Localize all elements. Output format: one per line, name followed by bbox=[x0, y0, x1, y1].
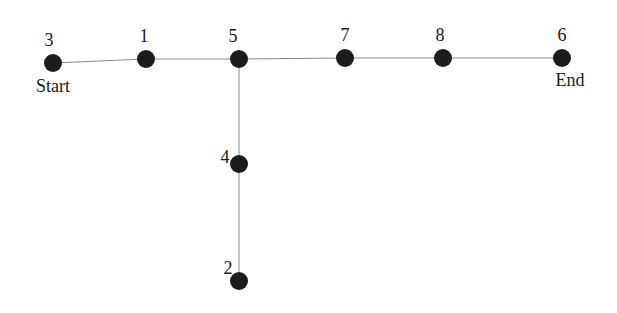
edge-3-1 bbox=[53, 59, 146, 63]
node-4 bbox=[230, 155, 248, 173]
node-label-3: 3 bbox=[45, 30, 54, 50]
node-label-5: 5 bbox=[229, 26, 238, 46]
node-label-8: 8 bbox=[436, 25, 445, 45]
node-8 bbox=[434, 49, 452, 67]
node-2 bbox=[230, 272, 248, 290]
labels-layer: 3Start15786End42 bbox=[36, 25, 585, 278]
node-1 bbox=[137, 50, 155, 68]
node-label-1: 1 bbox=[140, 26, 149, 46]
edges-layer bbox=[53, 58, 562, 281]
node-5 bbox=[230, 50, 248, 68]
graph-diagram: 3Start15786End42 bbox=[0, 0, 617, 313]
node-label-6: 6 bbox=[558, 25, 567, 45]
node-tag-start: Start bbox=[36, 76, 70, 96]
node-tag-end: End bbox=[556, 70, 585, 90]
node-label-4: 4 bbox=[221, 147, 230, 167]
node-label-2: 2 bbox=[224, 258, 233, 278]
node-7 bbox=[336, 49, 354, 67]
node-label-7: 7 bbox=[341, 25, 350, 45]
node-6 bbox=[553, 49, 571, 67]
edge-5-7 bbox=[239, 58, 345, 59]
nodes-layer bbox=[44, 49, 571, 290]
node-3 bbox=[44, 54, 62, 72]
